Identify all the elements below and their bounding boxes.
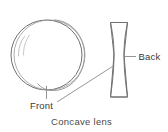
figure-background: [0, 0, 168, 132]
lens-figure-svg: Front Back Concave lens: [0, 0, 168, 132]
front-label: Front: [30, 100, 53, 111]
figure-caption: Concave lens: [51, 116, 112, 127]
concave-lens-diagram: Front Back Concave lens: [0, 0, 168, 132]
back-label: Back: [139, 51, 161, 62]
